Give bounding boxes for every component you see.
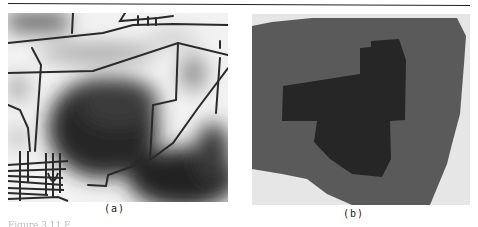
panel-a-distance-map [8,13,228,202]
panel-a-label: (a) [104,203,125,214]
panel-b-label: (b) [343,208,364,219]
panel-b-segmentation [252,14,470,205]
figure-caption: Figure 3.11 F [8,220,70,227]
top-rule [8,3,470,6]
